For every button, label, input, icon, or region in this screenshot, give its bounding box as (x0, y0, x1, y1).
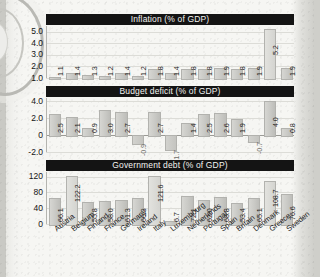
y-axis-tick-label: 4.0 (21, 39, 43, 48)
bar-value-label: 2.1 (74, 123, 81, 133)
y-axis-tick-label: 3.0 (21, 50, 43, 59)
bar-value-label: 1.8 (239, 66, 246, 76)
bar-value-label: 121.6 (157, 185, 164, 203)
gridline (46, 43, 294, 44)
bar-value-label: 3.0 (107, 123, 114, 133)
bar-value-label: -0.7 (256, 142, 263, 154)
y-axis-tick-label: 120 (21, 172, 43, 181)
y-axis-tick-label: 0 (21, 131, 43, 140)
y-axis-tick-label: 5.0 (21, 27, 43, 36)
bar-value-label: 1.1 (57, 66, 64, 76)
y-axis-tick-label: 0 (21, 220, 43, 229)
y-axis-tick-label: 40 (21, 204, 43, 213)
bar-value-label: 4.0 (272, 118, 279, 128)
gridline (46, 192, 294, 193)
bar-value-label: 108.7 (272, 190, 279, 208)
y-axis-tick-label: 2.0 (21, 114, 43, 123)
chart-title-government-debt: Government debt (% of GDP) (46, 160, 294, 171)
bar (99, 76, 111, 80)
y-axis-tick-label: 4.0 (21, 97, 43, 106)
plot-area-budget-deficit: 4.02.00-2.02.52.10.93.02.7-0.92.7-1.71.4… (46, 98, 294, 152)
bar-value-label: 2.5 (57, 123, 64, 133)
chart-title-inflation: Inflation (% of GDP) (46, 14, 294, 25)
bar-value-label: 0.9 (91, 123, 98, 133)
bar-value-label: 122.2 (74, 184, 81, 202)
y-axis-tick-label: 2.0 (21, 62, 43, 71)
gridline (46, 118, 294, 119)
plot-area-inflation: 5.04.03.02.01.01.11.41.31.21.41.21.81.41… (46, 26, 294, 78)
gridline (46, 101, 294, 102)
bar-value-label: 1.9 (223, 66, 230, 76)
bar-value-label: 1.9 (256, 66, 263, 76)
bar-value-label: 2.5 (206, 123, 213, 133)
bar-value-label: 2.6 (223, 123, 230, 133)
bar-value-label: 1.3 (91, 66, 98, 76)
bar-value-label: -0.9 (140, 144, 147, 156)
bar-value-label: 0.8 (289, 123, 296, 133)
y-axis-tick-label: 80 (21, 188, 43, 197)
gridline (46, 32, 294, 33)
bar-value-label: 1.8 (157, 66, 164, 76)
y-axis-tick-label: -2.0 (21, 148, 43, 157)
gridline (46, 55, 294, 56)
y-axis-line (46, 172, 47, 224)
chart-title-budget-deficit: Budget deficit (% of GDP) (46, 86, 294, 97)
bar-value-label: 1.2 (107, 66, 114, 76)
bar-value-label: 1.4 (74, 66, 81, 76)
bar-value-label: 2.7 (157, 123, 164, 133)
y-axis-tick-label: 1.0 (21, 74, 43, 83)
bar-value-label: 1.8 (190, 66, 197, 76)
bar-value-label: 2.7 (124, 123, 131, 133)
bar (49, 77, 61, 80)
bar-value-label: 1.8 (206, 66, 213, 76)
bar-value-label: 1.9 (289, 66, 296, 76)
bar-value-label: 1.4 (124, 66, 131, 76)
y-axis-line (46, 26, 47, 78)
bar-value-label: 1.4 (173, 66, 180, 76)
bar-value-label: 1.4 (190, 123, 197, 133)
bar (132, 76, 144, 80)
gridline (46, 177, 294, 178)
bar-value-label: 1.9 (239, 123, 246, 133)
y-axis-line (46, 98, 47, 152)
bar-value-label: 1.2 (140, 66, 147, 76)
bar-value-label: 5.2 (272, 46, 279, 56)
